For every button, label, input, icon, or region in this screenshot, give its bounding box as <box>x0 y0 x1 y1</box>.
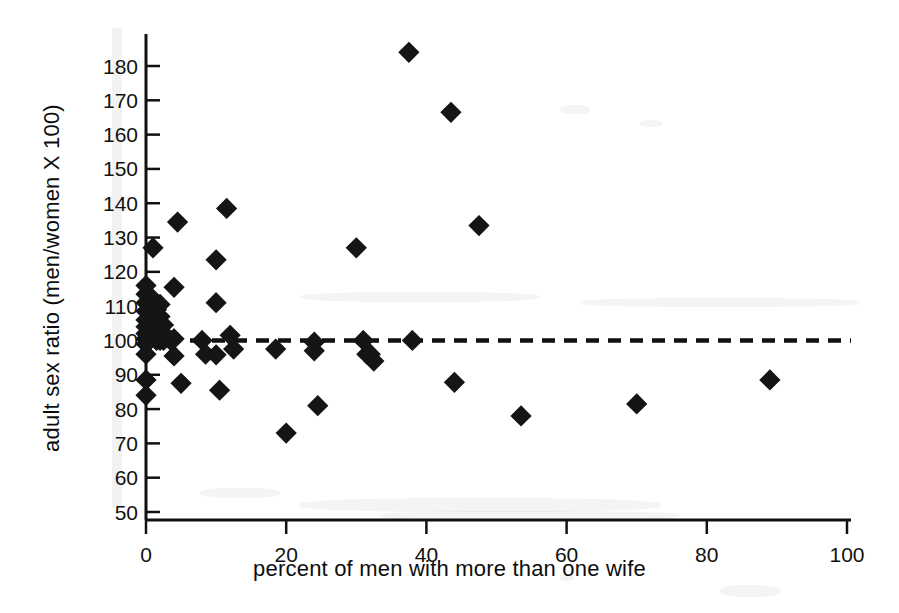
data-point-marker <box>165 346 184 365</box>
data-point-marker <box>445 373 464 392</box>
data-point-marker <box>403 331 422 350</box>
data-point-marker <box>469 216 488 235</box>
y-axis-tick-labels: 5060708090100110120130140150160170180 <box>103 55 138 524</box>
data-point-marker <box>308 396 327 415</box>
y-tick-label: 60 <box>115 466 138 489</box>
y-tick-label: 80 <box>115 398 138 421</box>
y-tick-label: 130 <box>103 226 138 249</box>
data-point-marker <box>441 103 460 122</box>
y-tick-label: 50 <box>115 501 138 524</box>
data-point-marker <box>165 278 184 297</box>
data-point-marker <box>137 386 156 405</box>
y-axis-title: adult sex ratio (men/women X 100) <box>39 18 65 538</box>
plot-canvas: 5060708090100110120130140150160170180 02… <box>0 0 899 613</box>
y-axis-title-container: adult sex ratio (men/women X 100) <box>39 18 69 538</box>
data-point-marker <box>168 213 187 232</box>
y-tick-label: 180 <box>103 55 138 78</box>
data-point-marker <box>347 238 366 257</box>
scatter-plot-figure: 5060708090100110120130140150160170180 02… <box>0 0 899 613</box>
data-point-marker <box>207 293 226 312</box>
x-axis-tick-marks <box>146 520 847 534</box>
y-tick-label: 120 <box>103 260 138 283</box>
data-point-marker <box>399 43 418 62</box>
y-tick-label: 170 <box>103 89 138 112</box>
y-tick-label: 150 <box>103 157 138 180</box>
data-point-marker <box>512 406 531 425</box>
y-tick-label: 90 <box>115 363 138 386</box>
data-point-marker <box>277 424 296 443</box>
y-tick-label: 160 <box>103 123 138 146</box>
y-tick-label: 100 <box>103 329 138 352</box>
data-point-marker <box>217 199 236 218</box>
data-point-marker <box>207 250 226 269</box>
data-point-marker <box>210 381 229 400</box>
data-point-marker <box>760 370 779 389</box>
x-axis-title: percent of men with more than one wife <box>0 556 899 582</box>
y-tick-label: 110 <box>105 295 138 318</box>
data-point-marker <box>172 374 191 393</box>
y-tick-label: 140 <box>103 192 138 215</box>
data-point-marker <box>627 394 646 413</box>
y-tick-label: 70 <box>115 432 138 455</box>
data-point-group <box>137 43 780 443</box>
